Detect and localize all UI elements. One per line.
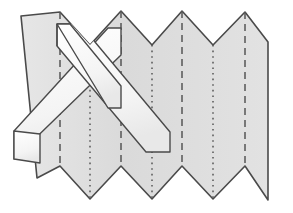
figure-root — [0, 0, 293, 213]
strip-left-tail — [14, 131, 40, 163]
strip-left-tail-group — [14, 131, 40, 163]
accordion-paper-diagram — [0, 0, 293, 213]
